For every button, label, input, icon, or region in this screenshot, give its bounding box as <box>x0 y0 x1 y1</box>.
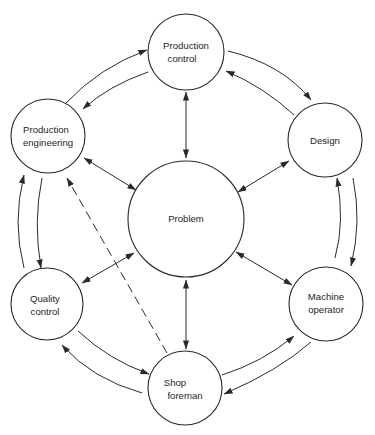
node-quality-control-label-2: control <box>31 306 60 317</box>
node-shop-foreman-label-1: Shop <box>164 377 186 388</box>
edge-production-engineering-to-quality-control <box>37 178 42 268</box>
edge-design-to-production-control <box>226 71 294 115</box>
edge-problem-quality-control <box>82 253 134 283</box>
node-production-control-circle <box>148 14 224 90</box>
node-machine-operator: Machine operator <box>289 267 363 341</box>
node-problem: Problem <box>128 161 244 277</box>
edge-production-control-to-production-engineering <box>83 72 148 109</box>
node-production-control: Production control <box>148 14 224 90</box>
communication-diagram: Problem Production control Design Machin… <box>0 0 375 435</box>
node-quality-control: Quality control <box>11 268 83 340</box>
edge-machine-operator-to-design <box>335 178 341 258</box>
edge-problem-machine-operator <box>236 252 292 285</box>
edge-shop-foreman-to-machine-operator <box>222 336 294 375</box>
node-quality-control-label-1: Quality <box>30 293 60 304</box>
node-problem-label: Problem <box>168 213 204 224</box>
node-design-label: Design <box>310 135 340 146</box>
node-production-engineering-label-1: Production <box>23 124 69 135</box>
node-design: Design <box>288 103 362 177</box>
edge-production-control-to-design <box>228 51 311 100</box>
node-production-control-label-2: control <box>168 53 197 64</box>
node-production-control-label-1: Production <box>163 40 209 51</box>
edge-problem-production-engineering <box>84 158 136 190</box>
edge-machine-operator-to-shop-foreman <box>224 342 311 394</box>
edge-problem-design <box>238 161 289 192</box>
node-shop-foreman: Shop foreman <box>148 351 222 425</box>
node-machine-operator-label-2: operator <box>308 304 345 315</box>
edge-quality-control-to-production-engineering <box>18 175 24 268</box>
edge-shop-foreman-to-quality-control <box>62 345 142 393</box>
edge-quality-control-to-shop-foreman <box>78 331 149 374</box>
node-machine-operator-label-1: Machine <box>308 291 344 302</box>
node-production-engineering: Production engineering <box>11 99 85 173</box>
node-production-engineering-circle <box>11 99 85 173</box>
node-shop-foreman-circle <box>148 351 222 425</box>
node-production-engineering-label-2: engineering <box>23 137 73 148</box>
edge-design-to-machine-operator <box>351 178 357 266</box>
node-shop-foreman-label-2: foreman <box>167 390 202 401</box>
node-quality-control-circle <box>11 268 83 340</box>
